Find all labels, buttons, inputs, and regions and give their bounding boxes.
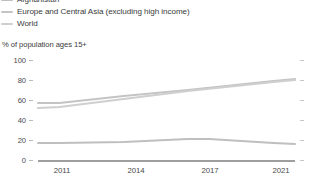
chart-container: Afghanistan Europe and Central Asia (exc… (0, 0, 310, 186)
x-tick-label-2021: 2021 (272, 166, 289, 175)
series-line-afghanistan (38, 139, 295, 144)
series-layer (0, 0, 310, 186)
x-tick-label-2014: 2014 (127, 166, 144, 175)
x-axis-line (38, 160, 295, 162)
series-line-world (38, 80, 295, 108)
plot-area: 100 80 60 40 20 0 2011 2014 2017 2021 (0, 0, 310, 186)
series-line-europe-central-asia (38, 79, 295, 103)
x-tick-label-2017: 2017 (201, 166, 218, 175)
x-tick-label-2011: 2011 (54, 166, 71, 175)
